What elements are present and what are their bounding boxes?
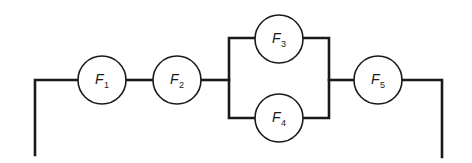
component-f3: F 3 (255, 15, 303, 63)
parallel-left-bus (229, 38, 255, 118)
component-f3-subscript: 3 (281, 39, 286, 49)
output-lead (402, 80, 442, 157)
component-f5: F 5 (354, 56, 402, 104)
parallel-right-bus (303, 38, 329, 118)
component-f4-subscript: 4 (281, 118, 286, 128)
component-f4: F 4 (255, 94, 303, 142)
input-lead (35, 80, 78, 155)
component-f1: F 1 (78, 56, 126, 104)
component-f2: F 2 (153, 56, 201, 104)
reliability-block-diagram: F 1 F 2 F 3 F 4 F 5 (0, 0, 472, 163)
component-f2-subscript: 2 (179, 80, 184, 90)
component-f1-subscript: 1 (104, 80, 109, 90)
component-f5-subscript: 5 (380, 80, 385, 90)
